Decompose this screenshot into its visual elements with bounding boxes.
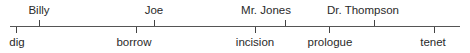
tick-incision (255, 27, 256, 33)
tick-dr-thompson (374, 20, 375, 26)
label-joe: Joe (145, 4, 164, 17)
tick-billy (39, 20, 40, 26)
tick-joe (154, 20, 155, 26)
label-tenet: tenet (420, 36, 446, 49)
tick-tenet (434, 27, 435, 33)
tick-dig (16, 27, 17, 33)
tick-mr-jones (285, 20, 286, 26)
label-dig: dig (9, 36, 24, 49)
label-dr-thompson: Dr. Thompson (327, 4, 399, 17)
label-billy: Billy (28, 4, 49, 17)
label-incision: incision (236, 36, 274, 49)
timeline-axis (10, 26, 460, 27)
tick-prologue (329, 27, 330, 33)
label-borrow: borrow (116, 36, 151, 49)
tick-borrow (136, 27, 137, 33)
label-mr-jones: Mr. Jones (241, 4, 291, 17)
label-prologue: prologue (308, 36, 353, 49)
